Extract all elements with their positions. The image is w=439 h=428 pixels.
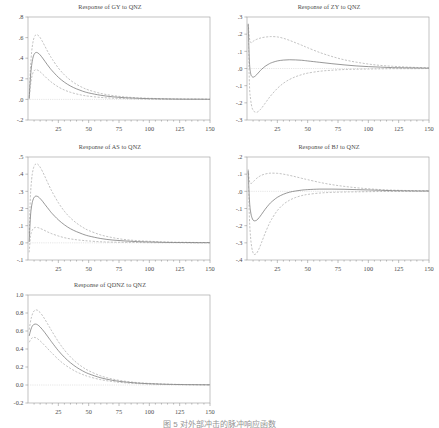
y-tick-label: 0.6 (16, 327, 24, 334)
plot-area-response-gy-qnz: .8.6.4.2.0-.2255075100125150 (2, 3, 218, 138)
curve-lower-band (248, 172, 429, 254)
y-tick-label: 0.4 (16, 345, 25, 352)
y-tick-label: -.2 (17, 116, 24, 123)
plot-area-response-bj-qnz: .2.1.0-.1-.2-.3-.4255075100125150 (221, 143, 437, 278)
y-tick-label: .3 (19, 188, 24, 195)
x-tick-label: 25 (55, 265, 61, 272)
x-tick-label: 50 (86, 125, 92, 132)
y-tick-label: 1.0 (16, 291, 24, 298)
y-tick-label: .2 (238, 153, 243, 160)
y-tick-label: .0 (238, 65, 243, 72)
plot-area-response-as-qnz: .5.4.3.2.1.0-.1255075100125150 (2, 143, 218, 278)
curve-impulse-response (29, 52, 210, 99)
x-tick-label: 25 (274, 125, 280, 132)
plot-frame (28, 157, 210, 260)
y-tick-label: .0 (19, 96, 24, 103)
x-tick-label: 150 (205, 408, 214, 415)
x-tick-label: 75 (116, 265, 122, 272)
x-tick-label: 150 (424, 265, 433, 272)
curve-upper-band (29, 35, 210, 99)
x-tick-label: 100 (364, 265, 373, 272)
y-tick-label: .1 (19, 222, 24, 229)
x-tick-label: 150 (424, 125, 433, 132)
x-tick-label: 50 (305, 265, 311, 272)
y-tick-label: .1 (238, 48, 243, 55)
y-tick-label: -0.2 (14, 399, 24, 406)
y-tick-label: .5 (19, 153, 24, 160)
curve-upper-band (29, 164, 210, 243)
y-tick-label: .8 (19, 13, 24, 20)
y-tick-label: .1 (238, 170, 243, 177)
plot-frame (247, 157, 429, 260)
plot-area-response-zy-qnz: .3.2.1.0-.1-.2-.3255075100125150 (221, 3, 437, 138)
x-tick-label: 100 (145, 265, 154, 272)
x-tick-label: 125 (175, 408, 184, 415)
curve-lower-band (29, 70, 210, 100)
y-tick-label: .3 (238, 13, 243, 20)
y-tick-label: .0 (238, 188, 243, 195)
y-tick-label: .6 (19, 34, 24, 41)
x-tick-label: 75 (335, 125, 341, 132)
curve-upper-band (29, 310, 210, 385)
chart-panel-response-zy-qnz: Response of ZY to QNZ.3.2.1.0-.1-.2-.325… (221, 3, 437, 138)
curve-lower-band (29, 337, 210, 385)
x-tick-label: 75 (335, 265, 341, 272)
y-tick-label: -.1 (17, 256, 24, 263)
figure-caption: 图 5 对外部冲击的脉冲响应函数 (0, 418, 439, 428)
x-tick-label: 100 (145, 408, 154, 415)
y-tick-label: -.1 (236, 205, 243, 212)
y-tick-label: 0.2 (16, 363, 24, 370)
plot-frame (28, 295, 210, 403)
x-tick-label: 75 (116, 408, 122, 415)
y-tick-label: -.2 (236, 222, 243, 229)
x-tick-label: 150 (205, 125, 214, 132)
y-tick-label: -.3 (236, 116, 243, 123)
x-tick-label: 125 (175, 125, 184, 132)
x-tick-label: 100 (145, 125, 154, 132)
x-tick-label: 75 (116, 125, 122, 132)
y-tick-label: .2 (19, 75, 24, 82)
chart-panel-response-qdnz-qnz: Response of QDNZ to QNZ1.00.80.60.40.20.… (2, 281, 218, 421)
curve-impulse-response (248, 24, 429, 77)
x-tick-label: 50 (86, 408, 92, 415)
y-tick-label: .0 (19, 239, 24, 246)
y-tick-label: .4 (19, 170, 25, 177)
chart-panel-response-gy-qnz: Response of GY to QNZ.8.6.4.2.0-.2255075… (2, 3, 218, 138)
curve-impulse-response (29, 196, 210, 243)
x-tick-label: 25 (55, 408, 61, 415)
x-tick-label: 125 (394, 125, 403, 132)
chart-panel-response-bj-qnz: Response of BJ to QNZ.2.1.0-.1-.2-.3-.42… (221, 143, 437, 278)
curve-lower-band (29, 227, 210, 252)
y-tick-label: .2 (238, 30, 243, 37)
curve-impulse-response (29, 324, 210, 385)
x-tick-label: 25 (274, 265, 280, 272)
x-tick-label: 50 (305, 125, 311, 132)
x-tick-label: 50 (86, 265, 92, 272)
chart-panel-response-as-qnz: Response of AS to QNZ.5.4.3.2.1.0-.12550… (2, 143, 218, 278)
curve-upper-band (248, 169, 429, 190)
y-tick-label: -.2 (236, 99, 243, 106)
curve-lower-band (248, 25, 429, 112)
y-tick-label: -.4 (236, 256, 244, 263)
y-tick-label: -.3 (236, 239, 243, 246)
plot-area-response-qdnz-qnz: 1.00.80.60.40.20.0-0.2255075100125150 (2, 281, 218, 421)
x-tick-label: 125 (394, 265, 403, 272)
x-tick-label: 100 (364, 125, 373, 132)
y-tick-label: -.1 (236, 82, 243, 89)
x-tick-label: 25 (55, 125, 61, 132)
x-tick-label: 150 (205, 265, 214, 272)
y-tick-label: .4 (19, 54, 25, 61)
y-tick-label: .2 (19, 205, 24, 212)
plot-frame (28, 17, 210, 120)
x-tick-label: 125 (175, 265, 184, 272)
y-tick-label: 0.0 (16, 381, 24, 388)
y-tick-label: 0.8 (16, 309, 24, 316)
